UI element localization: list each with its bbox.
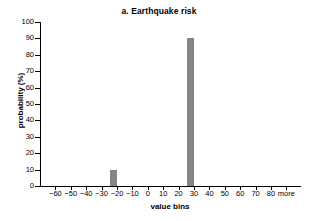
y-axis-tick	[35, 186, 40, 187]
y-axis-tick-labels: 1009080706050403020100	[10, 0, 34, 221]
x-axis-tick-label: 40	[205, 190, 213, 198]
y-axis-tick	[35, 22, 40, 23]
y-axis-tick-label: 50	[14, 100, 34, 108]
x-axis-tick-label: 10	[159, 190, 167, 198]
y-axis-line	[40, 22, 41, 187]
x-axis-tick-label: −60	[49, 190, 62, 198]
chart-title: a. Earthquake risk	[0, 6, 318, 16]
y-axis-tick-label: 0	[14, 182, 34, 190]
y-axis-tick	[35, 170, 40, 171]
y-axis-tick	[35, 104, 40, 105]
x-axis-tick-label: −10	[126, 190, 139, 198]
x-axis-tick-label: more	[278, 190, 295, 198]
x-axis-line	[40, 186, 301, 187]
x-axis-tick-label: −20	[111, 190, 124, 198]
y-axis-tick-label: 10	[14, 166, 34, 174]
bar	[110, 170, 117, 186]
y-axis-tick	[35, 153, 40, 154]
y-axis-tick-label: 90	[14, 34, 34, 42]
x-axis-tick-label: 60	[236, 190, 244, 198]
bar	[187, 38, 194, 186]
x-axis-tick-label: 0	[146, 190, 150, 198]
y-axis-tick	[35, 120, 40, 121]
x-axis-tick-label: 70	[251, 190, 259, 198]
y-axis-tick-label: 70	[14, 67, 34, 75]
x-axis-tick-label: 80	[267, 190, 275, 198]
y-axis-tick-label: 30	[14, 133, 34, 141]
y-axis-tick	[35, 137, 40, 138]
y-axis-tick-label: 60	[14, 84, 34, 92]
y-axis-tick	[35, 71, 40, 72]
y-axis-tick-label: 20	[14, 149, 34, 157]
x-axis-tick-label: 20	[174, 190, 182, 198]
x-axis-tick-label: −40	[80, 190, 93, 198]
x-axis-tick-label: −50	[64, 190, 77, 198]
x-axis-title: value bins	[40, 202, 300, 211]
y-axis-tick	[35, 38, 40, 39]
x-axis-tick-label: 50	[221, 190, 229, 198]
x-axis-tick-label: −30	[95, 190, 108, 198]
y-axis-tick	[35, 88, 40, 89]
chart-figure: a. Earthquake risk probability (%) value…	[0, 0, 318, 221]
y-axis-tick	[35, 55, 40, 56]
x-axis-tick-label: 30	[190, 190, 198, 198]
y-axis-tick-label: 80	[14, 51, 34, 59]
y-axis-tick-label: 40	[14, 116, 34, 124]
y-axis-tick-label: 100	[14, 18, 34, 26]
